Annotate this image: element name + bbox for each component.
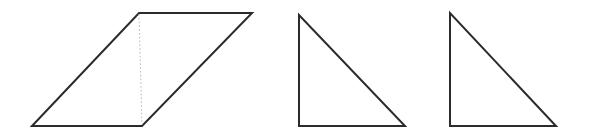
geometry-figure-canvas xyxy=(0,0,589,137)
parallelogram-divider-dotted-line xyxy=(139,14,142,125)
middle-right-triangle-shape xyxy=(299,15,405,126)
geometry-figure-svg xyxy=(0,0,589,137)
right-right-triangle-shape xyxy=(450,13,556,126)
